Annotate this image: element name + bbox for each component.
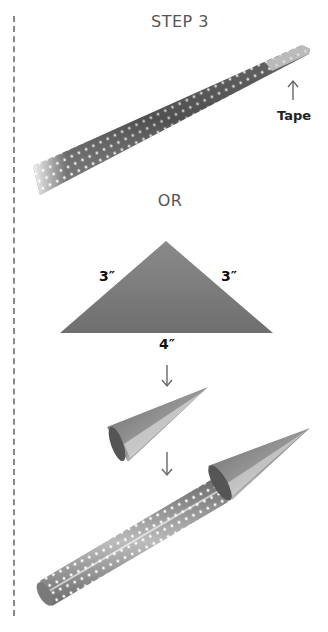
down-arrow-icon bbox=[162, 452, 172, 475]
tape-label: Tape bbox=[270, 108, 318, 123]
side-length-left: 3″ bbox=[92, 268, 122, 284]
tape-piece bbox=[265, 45, 310, 71]
down-arrow-icon bbox=[162, 365, 172, 386]
assembled-arrow bbox=[33, 428, 310, 608]
paper-cone bbox=[105, 387, 208, 463]
rolled-paper-strip bbox=[33, 45, 310, 195]
triangle-template bbox=[60, 241, 273, 333]
base-length: 4″ bbox=[152, 336, 182, 352]
illustration bbox=[0, 0, 328, 632]
or-label: OR bbox=[140, 191, 200, 210]
up-arrow-icon bbox=[288, 81, 298, 100]
side-length-right: 3″ bbox=[214, 268, 244, 284]
